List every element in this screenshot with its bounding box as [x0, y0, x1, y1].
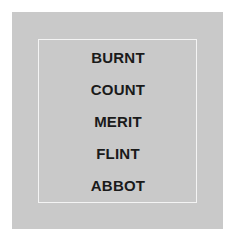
- word-item: BURNT: [0, 50, 236, 65]
- word-item: MERIT: [0, 114, 236, 129]
- word-item: ABBOT: [0, 178, 236, 193]
- word-item: FLINT: [0, 146, 236, 161]
- word-item: COUNT: [0, 82, 236, 97]
